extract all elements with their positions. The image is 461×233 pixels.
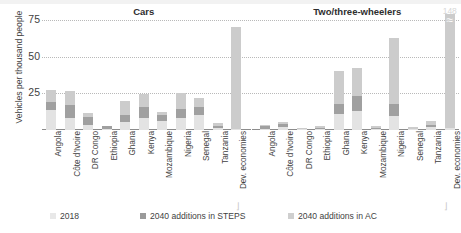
bar-segment bbox=[352, 111, 362, 130]
bar[interactable] bbox=[389, 38, 399, 130]
bar-segment bbox=[352, 96, 362, 111]
category-label: Ghana bbox=[128, 131, 137, 197]
category-label: Ghana bbox=[342, 131, 351, 197]
bar-segment bbox=[139, 107, 149, 119]
category-label: Tanzania bbox=[434, 131, 443, 197]
y-axis-ticks: 255075 bbox=[12, 0, 40, 135]
bar-segment bbox=[231, 27, 241, 128]
bar[interactable] bbox=[260, 125, 270, 130]
category-label: Senegal bbox=[416, 131, 425, 197]
bar-segment bbox=[120, 115, 130, 122]
category-label: Nigeria bbox=[184, 131, 193, 197]
category-label: Kenya bbox=[147, 131, 156, 197]
panel-title-1: Two/three-wheelers bbox=[256, 6, 460, 17]
bar-segment bbox=[231, 129, 241, 130]
bar[interactable] bbox=[83, 113, 93, 130]
bar-segment bbox=[65, 118, 75, 130]
bar[interactable] bbox=[231, 27, 241, 130]
category-label: Côte d'Ivoire bbox=[286, 131, 295, 197]
bar-segment bbox=[315, 129, 325, 130]
legend-decoration-icon: ⌋ bbox=[444, 201, 448, 211]
bar-segment bbox=[389, 38, 399, 104]
legend-label: 2040 additions in STEPS bbox=[150, 211, 246, 221]
bar[interactable] bbox=[408, 127, 418, 130]
bar[interactable] bbox=[445, 14, 455, 130]
plot-area: CarsTwo/three-wheelers148≈ bbox=[42, 20, 459, 130]
bar-segment bbox=[46, 110, 56, 130]
bar[interactable] bbox=[139, 94, 149, 130]
bar-segment bbox=[120, 101, 130, 115]
bar-segment bbox=[260, 129, 270, 130]
bar-segment bbox=[213, 128, 223, 130]
category-label: Dev. economies bbox=[453, 131, 461, 197]
chart-figure: Vehicles per thousand people 255075 Cars… bbox=[0, 0, 461, 233]
bar[interactable] bbox=[46, 90, 56, 130]
bar-segment bbox=[426, 127, 436, 130]
category-label: Ethiopia bbox=[110, 131, 119, 197]
bar-segment bbox=[408, 129, 418, 130]
bar[interactable] bbox=[120, 101, 130, 130]
bar[interactable] bbox=[213, 123, 223, 130]
category-label: Dev. economies bbox=[239, 131, 248, 197]
bar-segment bbox=[46, 102, 56, 110]
bar[interactable] bbox=[176, 93, 186, 130]
bar-segment bbox=[334, 114, 344, 130]
y-tick-label-50: 50 bbox=[18, 50, 40, 62]
bar[interactable] bbox=[352, 68, 362, 130]
chart-legend: 20182040 additions in STEPS2040 addition… bbox=[0, 205, 461, 227]
category-label: Kenya bbox=[360, 131, 369, 197]
bar[interactable] bbox=[315, 126, 325, 130]
category-label: Mozambique bbox=[379, 131, 388, 197]
bar-segment bbox=[102, 129, 112, 130]
bar-segment bbox=[278, 127, 288, 130]
legend-item[interactable]: 2040 additions in STEPS bbox=[140, 211, 246, 221]
bar-segment bbox=[297, 129, 307, 130]
y-tick-label-75: 75 bbox=[18, 13, 40, 25]
legend-swatch-icon bbox=[140, 213, 146, 219]
bar[interactable] bbox=[157, 112, 167, 130]
bar-segment bbox=[176, 109, 186, 118]
bar-segment bbox=[334, 104, 344, 114]
category-label: Angola bbox=[268, 131, 277, 197]
bar-segment bbox=[157, 121, 167, 130]
panel-separator bbox=[251, 20, 252, 130]
bar-segment bbox=[352, 68, 362, 96]
category-label: DR Congo bbox=[305, 131, 314, 197]
bar-segment bbox=[389, 116, 399, 130]
category-label: Senegal bbox=[202, 131, 211, 197]
bar[interactable] bbox=[194, 98, 204, 130]
bar[interactable] bbox=[278, 122, 288, 130]
bar[interactable] bbox=[426, 121, 436, 130]
bar-segment bbox=[65, 105, 75, 118]
bar-segment bbox=[65, 91, 75, 105]
bar-segment bbox=[139, 118, 149, 130]
bar[interactable] bbox=[371, 126, 381, 130]
bar[interactable] bbox=[334, 71, 344, 130]
bar-segment bbox=[83, 117, 93, 125]
legend-label: 2040 additions in AC bbox=[298, 211, 377, 221]
bar-segment bbox=[83, 125, 93, 130]
bar-segment bbox=[445, 14, 455, 128]
bar-segment bbox=[46, 90, 56, 102]
bar-segment bbox=[445, 128, 455, 130]
bar-segment bbox=[176, 118, 186, 130]
bar-segment bbox=[371, 129, 381, 130]
bar-segment bbox=[157, 115, 167, 122]
category-label: Ethiopia bbox=[323, 131, 332, 197]
category-label: Nigeria bbox=[397, 131, 406, 197]
category-label: Côte d'Ivoire bbox=[73, 131, 82, 197]
bar[interactable] bbox=[297, 128, 307, 130]
legend-item[interactable]: 2040 additions in AC bbox=[288, 211, 377, 221]
category-labels: AngolaCôte d'IvoireDR CongoEthiopiaGhana… bbox=[42, 131, 459, 199]
axis-break-icon: ≈ bbox=[445, 17, 455, 23]
legend-item[interactable]: 2018 bbox=[50, 211, 79, 221]
bar-segment bbox=[194, 107, 204, 116]
bar-segment bbox=[389, 104, 399, 116]
category-label: DR Congo bbox=[91, 131, 100, 197]
bar-segment bbox=[334, 71, 344, 104]
bar[interactable] bbox=[65, 91, 75, 130]
bar[interactable] bbox=[102, 126, 112, 130]
panel-title-0: Cars bbox=[42, 6, 246, 17]
legend-swatch-icon bbox=[288, 213, 294, 219]
category-label: Angola bbox=[54, 131, 63, 197]
